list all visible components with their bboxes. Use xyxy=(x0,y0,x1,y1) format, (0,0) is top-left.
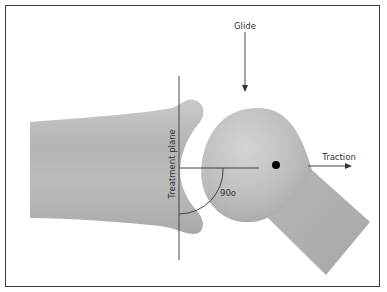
glide-arrowhead-icon xyxy=(242,85,248,92)
proximal-bone xyxy=(30,100,203,234)
angle-label: 90o xyxy=(220,188,236,198)
treatment-plane-label: Treatment plane xyxy=(167,129,177,200)
axis-of-rotation-dot xyxy=(272,161,280,169)
traction-arrowhead-icon xyxy=(345,163,352,169)
traction-label: Traction xyxy=(321,152,356,162)
joint-diagram: Glide Traction 90o Treatment plane xyxy=(0,0,387,292)
glide-label: Glide xyxy=(234,21,256,31)
